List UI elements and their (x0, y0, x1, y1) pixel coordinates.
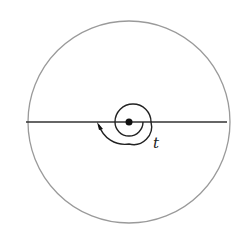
diagram-canvas: t (0, 0, 232, 227)
spiral-curve (99, 104, 152, 145)
label-t: t (153, 134, 160, 152)
center-point (126, 119, 133, 126)
arrowhead-icon (97, 122, 103, 130)
